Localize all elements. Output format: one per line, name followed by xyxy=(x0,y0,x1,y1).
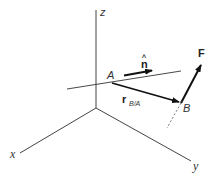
position-vector-subscript: B/A xyxy=(129,100,141,107)
force-label: F xyxy=(198,47,205,59)
y-axis-label: y xyxy=(192,159,199,173)
unit-normal-arrow xyxy=(124,71,152,76)
x-axis xyxy=(20,108,96,153)
position-vector-label: r xyxy=(122,93,127,105)
z-axis-label: z xyxy=(99,6,106,18)
point-b-label: B xyxy=(183,102,190,114)
y-axis xyxy=(96,108,191,161)
force-vector-arrow xyxy=(181,65,201,103)
vector-diagram: z x y n ^ A r B/A B F xyxy=(0,0,214,183)
position-vector-main: r xyxy=(122,93,127,105)
point-a-label: A xyxy=(106,69,114,81)
force-line-of-action xyxy=(167,103,181,128)
unit-normal-hat: ^ xyxy=(142,54,146,61)
x-axis-label: x xyxy=(9,147,16,161)
